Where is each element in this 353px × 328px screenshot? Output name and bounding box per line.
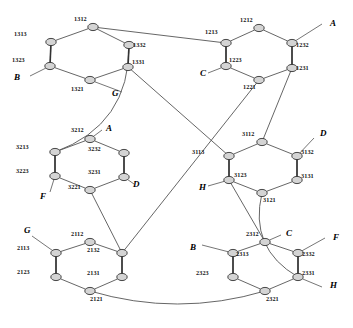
node-label-1321: 1321 [71,85,84,92]
node-1212[interactable] [254,24,264,31]
node-label-3232: 3232 [88,145,101,152]
node-label-3221: 3221 [68,183,81,190]
graph-canvas: 1313131213321323133113211213121212321223… [0,0,353,328]
hex-edge-1321-1323 [50,66,90,80]
node-3231[interactable] [119,173,129,180]
node-3221[interactable] [85,186,95,193]
curve-2121-2321 [90,291,265,304]
node-label-1323: 1323 [12,56,25,63]
port-A-mid-left: A [105,123,112,133]
node-1223[interactable] [221,62,231,69]
node-3213[interactable] [50,148,60,155]
node-label-2332: 2332 [302,250,315,257]
node-2123[interactable] [51,273,61,280]
node-label-2113: 2113 [17,244,29,251]
node-label-3123: 3123 [234,171,247,178]
node-1312[interactable] [88,23,98,30]
node-2321[interactable] [260,287,270,294]
node-label-1332: 1332 [133,41,146,48]
long-edge-1221-2132 [122,80,259,253]
node-1323[interactable] [45,62,55,69]
port-G-top-left: G [112,88,119,98]
hex-edge-3231-3221 [90,177,124,190]
node-3112[interactable] [257,138,267,145]
node-label-3212: 3212 [71,126,84,133]
hex-edge-1212-1232 [259,28,292,43]
long-edge-1331-3113 [128,67,229,156]
node-label-1312: 1312 [74,15,87,22]
node-label-1231: 1231 [296,64,309,71]
port-B-top-left: B [13,72,20,82]
node-label-1331: 1331 [132,58,145,65]
port-G-bottom-left: G [24,225,31,235]
port-C-bottom-right: C [286,228,293,238]
hex-edge-1312-1332 [93,27,129,45]
node-label-2323: 2323 [196,269,209,276]
hex-edge-1221-1223 [226,66,259,80]
node-3232[interactable] [119,149,129,156]
node-label-2132: 2132 [87,246,100,253]
hex-edge-1331-1321 [90,67,128,80]
node-label-3231: 3231 [88,168,101,175]
port-D-mid-right: D [319,128,327,138]
hex-edge-2331-2321 [265,277,298,291]
node-2113[interactable] [51,249,61,256]
node-label-2123: 2123 [17,268,30,275]
node-2112[interactable] [85,238,95,245]
port-F-bottom-right: F [332,232,339,242]
hex-edge-3131-3121 [262,180,297,193]
node-label-1232: 1232 [296,41,309,48]
node-3113[interactable] [224,152,234,159]
port-F-mid-left: F [39,191,46,201]
graph-diagram: 1313131213321323133113211213121212321223… [0,0,353,328]
node-2131[interactable] [117,273,127,280]
port-B-bottom-right: B [189,242,196,252]
node-label-3223: 3223 [16,167,29,174]
port-H-mid-right: H [198,182,207,192]
node-1313[interactable] [46,38,56,45]
port-A-top-right: A [329,18,336,28]
node-label-3121: 3121 [263,196,276,203]
node-2323[interactable] [228,273,238,280]
node-label-3113: 3113 [192,148,204,155]
hex-edge-1313-1312 [51,27,93,42]
node-1213[interactable] [221,39,231,46]
curve-3121-2331 [259,193,298,277]
node-label-1313: 1313 [14,30,27,37]
node-label-2331: 2331 [302,269,315,276]
node-label-1223: 1223 [229,56,242,63]
nodes-layer [45,23,303,294]
node-labels-layer: 1313131213321323133113211213121212321223… [12,15,315,302]
node-label-1212: 1212 [240,16,253,23]
port-D-mid-left: D [132,179,140,189]
hex-edge-1213-1212 [226,28,259,43]
hex-edge-3113-3112 [229,142,262,156]
hex-edge-3213-3212 [55,139,90,152]
port-H-bottom-right: H [329,280,338,290]
node-label-2121: 2121 [90,295,103,302]
node-label-3213: 3213 [16,143,29,150]
node-3212[interactable] [85,135,95,142]
node-label-3112: 3112 [242,130,254,137]
node-label-2313: 2313 [236,250,249,257]
node-3123[interactable] [224,176,234,183]
node-2121[interactable] [85,287,95,294]
node-label-3131: 3131 [301,172,314,179]
long-edge-1231-3112 [262,68,292,142]
node-2312[interactable] [260,238,270,245]
port-labels-layer: BGACADFDHGBCFH [13,18,339,290]
node-3223[interactable] [50,172,60,179]
node-label-2321: 2321 [266,295,279,302]
node-label-2112: 2112 [71,230,83,237]
node-label-1213: 1213 [205,28,218,35]
port-C-top-right: C [200,68,207,78]
node-1321[interactable] [85,76,95,83]
node-2132[interactable] [117,249,127,256]
node-label-2312: 2312 [246,230,259,237]
node-label-3132: 3132 [301,148,314,155]
node-label-1221: 1221 [243,83,256,90]
hex-edge-3112-3132 [262,142,297,156]
hex-edge-2121-2123 [56,277,90,291]
node-label-2131: 2131 [87,269,100,276]
